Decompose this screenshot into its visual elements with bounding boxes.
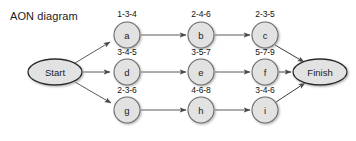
activity-node-c[interactable]: 2-3-5 c	[252, 9, 278, 48]
duration-label-f: 5-7-9	[255, 47, 275, 57]
node-label-d: d	[124, 67, 129, 78]
node-label-h: h	[198, 105, 203, 116]
duration-label-g: 2-3-6	[117, 85, 137, 95]
edge-start-a	[75, 42, 110, 63]
duration-label-h: 4-6-8	[191, 85, 211, 95]
edge-c-finish	[275, 45, 304, 62]
node-label-g: g	[124, 105, 129, 116]
aon-network-graph: Start Finish 1-3-4 a 2-4-6 b 2-3-5 c 3-4…	[0, 0, 356, 141]
finish-label: Finish	[307, 67, 332, 78]
duration-label-e: 3-5-7	[191, 47, 211, 57]
terminal-finish[interactable]: Finish	[293, 59, 347, 85]
edge-i-finish	[276, 83, 305, 102]
node-label-i: i	[264, 105, 266, 116]
activity-node-h[interactable]: 4-6-8 h	[188, 85, 214, 123]
duration-label-d: 3-4-5	[117, 47, 137, 57]
activity-node-g[interactable]: 2-3-6 g	[114, 85, 140, 123]
duration-label-i: 3-4-6	[255, 85, 275, 95]
activity-node-f[interactable]: 5-7-9 f	[252, 47, 278, 85]
duration-label-c: 2-3-5	[255, 9, 275, 19]
activity-node-a[interactable]: 1-3-4 a	[114, 9, 140, 48]
activity-node-b[interactable]: 2-4-6 b	[188, 9, 214, 48]
node-label-c: c	[263, 30, 268, 41]
duration-label-b: 2-4-6	[191, 9, 211, 19]
aon-diagram-canvas: AON diagram	[0, 0, 356, 141]
activity-node-d[interactable]: 3-4-5 d	[114, 47, 140, 85]
activity-node-i[interactable]: 3-4-6 i	[252, 85, 278, 123]
terminal-start[interactable]: Start	[28, 59, 82, 85]
activity-node-e[interactable]: 3-5-7 e	[188, 47, 214, 85]
node-label-f: f	[264, 67, 267, 78]
edge-start-g	[75, 82, 111, 103]
start-label: Start	[45, 67, 65, 78]
node-label-e: e	[198, 67, 203, 78]
node-label-b: b	[198, 30, 203, 41]
duration-label-a: 1-3-4	[117, 9, 137, 19]
node-label-a: a	[124, 30, 130, 41]
